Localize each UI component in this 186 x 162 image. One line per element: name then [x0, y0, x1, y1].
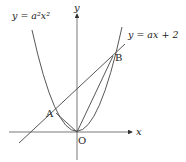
point-A-label: A — [45, 108, 54, 119]
y-axis-label: y — [73, 2, 80, 13]
diagram-canvas: y x O A B y = a²x² y = ax + 2 — [0, 0, 186, 162]
segment-OA — [56, 113, 77, 132]
origin-label: O — [78, 135, 86, 146]
line-equation-label: y = ax + 2 — [127, 29, 178, 40]
point-B-label: B — [115, 52, 122, 63]
line-y-ax-plus-2 — [19, 44, 125, 143]
x-axis-label: x — [136, 126, 142, 137]
segment-OB — [77, 56, 113, 132]
parabola-equation-label: y = a²x² — [11, 10, 50, 21]
